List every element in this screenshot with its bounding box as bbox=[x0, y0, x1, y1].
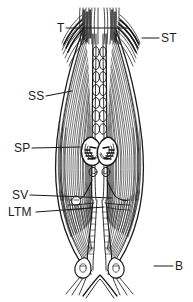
label-ss: SS bbox=[28, 90, 44, 102]
label-sp: SP bbox=[14, 142, 30, 154]
figure-root: T ST SS SP SV LTM B bbox=[0, 0, 193, 302]
label-ltm: LTM bbox=[8, 206, 32, 218]
label-st: ST bbox=[161, 32, 177, 44]
label-sv: SV bbox=[12, 189, 28, 201]
label-t: T bbox=[57, 22, 65, 34]
label-b: B bbox=[175, 260, 183, 272]
